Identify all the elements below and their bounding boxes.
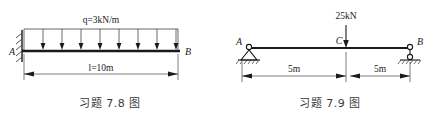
dimension-label-left-span: 5m	[288, 64, 301, 74]
dimension-label-right-span: 5m	[374, 64, 387, 74]
figure-sheet: A B q=3kN/m l=10m 习题 7.8 图	[0, 0, 440, 120]
figure-caption-7-9: 习题 7.9 图	[220, 94, 440, 110]
node-label-c: C	[336, 35, 343, 46]
node-label-a: A	[235, 36, 243, 47]
figure-7-9: 25kN A C B 5m 5m 习题 7.9 图	[220, 0, 440, 120]
point-load-arrow	[343, 25, 349, 48]
figure-caption-7-8: 习题 7.8 图	[0, 94, 220, 110]
dimension-label-span: l=10m	[89, 63, 114, 73]
node-label-b: B	[185, 46, 191, 57]
node-label-b: B	[417, 36, 423, 47]
node-label-a: A	[8, 46, 16, 57]
point-load-label: 25kN	[335, 11, 356, 21]
fixed-support-hatching	[16, 30, 22, 62]
distributed-load-arrows	[41, 29, 179, 50]
figure-7-8: A B q=3kN/m l=10m 习题 7.8 图	[0, 0, 220, 120]
distributed-load-label: q=3kN/m	[83, 15, 120, 25]
